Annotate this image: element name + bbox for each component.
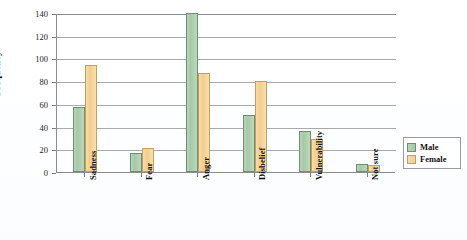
bar-male <box>299 131 311 172</box>
bar-male <box>243 115 255 172</box>
x-tick-mark <box>141 173 142 177</box>
legend-label-male: Male <box>420 142 438 152</box>
bar-group <box>73 13 97 172</box>
chart-legend: Male Female <box>403 137 461 169</box>
x-category-label: Fear <box>144 163 154 180</box>
gridline <box>57 128 396 129</box>
bar-male <box>73 107 85 172</box>
gridline <box>57 150 396 151</box>
bar-male <box>186 13 198 172</box>
y-tick-label: 140 <box>16 9 48 19</box>
legend-label-female: Female <box>420 154 446 164</box>
y-tick-label: 60 <box>16 100 48 110</box>
chart-title <box>56 0 396 2</box>
gridline <box>57 14 396 15</box>
bar-male <box>130 153 142 172</box>
bar-group <box>186 13 210 172</box>
gridline <box>57 105 396 106</box>
plot-area <box>56 14 395 173</box>
x-category-label: Anger <box>201 157 211 180</box>
y-tick-label: 120 <box>16 32 48 42</box>
legend-swatch-male-icon <box>407 143 416 152</box>
bar-chart-figure: Frequency 020406080100120140 SadnessFear… <box>0 0 467 240</box>
x-tick-mark <box>310 173 311 177</box>
legend-swatch-female-icon <box>407 155 416 164</box>
x-tick-mark <box>84 173 85 177</box>
gridline <box>57 37 396 38</box>
gridline <box>57 59 396 60</box>
y-tick-label: 0 <box>16 168 48 178</box>
y-tick-label: 20 <box>16 145 48 155</box>
x-category-label: Disbelief <box>257 147 267 180</box>
gridline <box>57 82 396 83</box>
y-axis-title: Frequency <box>0 51 2 96</box>
x-category-label: Vulnerability <box>314 131 324 180</box>
x-tick-mark <box>197 173 198 177</box>
y-tick-label: 100 <box>16 54 48 64</box>
y-tick-label: 40 <box>16 123 48 133</box>
y-tick-label: 80 <box>16 77 48 87</box>
legend-item-male: Male <box>407 141 457 153</box>
x-category-label: Not sure <box>370 148 380 180</box>
legend-item-female: Female <box>407 153 457 165</box>
bar-group <box>130 13 154 172</box>
x-category-label: Sadness <box>88 150 98 180</box>
x-tick-mark <box>367 173 368 177</box>
y-tick-mark <box>52 173 56 174</box>
x-tick-mark <box>254 173 255 177</box>
bar-male <box>356 164 368 172</box>
